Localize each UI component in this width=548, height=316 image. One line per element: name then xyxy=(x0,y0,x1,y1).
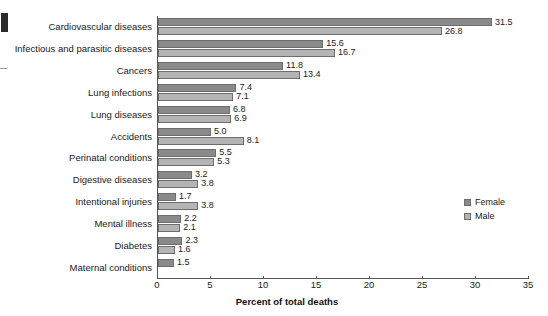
bar-male xyxy=(158,49,335,57)
bar-value-label: 31.5 xyxy=(495,18,513,27)
bar-value-label: 11.8 xyxy=(286,61,303,70)
category-label: Cardiovascular diseases xyxy=(49,21,153,32)
category-label: Infectious and parasitic diseases xyxy=(15,43,152,54)
bar-male xyxy=(158,115,231,123)
legend-item[interactable]: Male xyxy=(464,209,534,223)
legend-label: Male xyxy=(475,212,495,221)
bar-row: 2.31.6 xyxy=(158,234,528,256)
legend-label: Female xyxy=(475,198,505,207)
category-label: Digestive diseases xyxy=(73,174,152,185)
bar-male xyxy=(158,93,233,101)
bar-value-label: 1.5 xyxy=(177,258,190,267)
bar-row: 5.08.1 xyxy=(158,125,528,147)
x-tick-label: 30 xyxy=(470,279,481,290)
category-label-row: Intentional injuries xyxy=(0,191,152,213)
bar-row: 6.86.9 xyxy=(158,103,528,125)
bar-female xyxy=(158,40,323,48)
plot-area: 31.526.815.616.711.813.47.47.16.86.95.08… xyxy=(157,16,528,278)
bar-chart: Cardiovascular diseasesInfectious and pa… xyxy=(0,0,548,316)
category-label-row: Lung infections xyxy=(0,81,152,103)
bar-value-label: 6.9 xyxy=(234,114,247,123)
category-label: Maternal conditions xyxy=(70,262,152,273)
bar-value-label: 16.7 xyxy=(338,48,356,57)
bar-female xyxy=(158,171,192,179)
category-label: Perinatal conditions xyxy=(69,152,152,163)
bar-female xyxy=(158,193,176,201)
category-label-row: Maternal conditions xyxy=(0,256,152,278)
bar-male xyxy=(158,246,175,254)
category-label: Accidents xyxy=(111,131,152,142)
category-label-row: Perinatal conditions xyxy=(0,147,152,169)
x-tick-label: 10 xyxy=(258,279,269,290)
category-label: Diabetes xyxy=(115,240,153,251)
bar-row: 1.5 xyxy=(158,256,528,278)
bar-value-label: 26.8 xyxy=(445,27,463,36)
bar-row: 15.616.7 xyxy=(158,38,528,60)
category-label-row: Cancers xyxy=(0,60,152,82)
bar-value-label: 1.6 xyxy=(178,245,191,254)
category-label-row: Diabetes xyxy=(0,234,152,256)
bar-male xyxy=(158,137,244,145)
bar-female xyxy=(158,149,216,157)
bar-value-label: 5.0 xyxy=(214,127,227,136)
bar-row: 3.23.8 xyxy=(158,169,528,191)
bar-rows: 31.526.815.616.711.813.47.47.16.86.95.08… xyxy=(158,16,528,278)
x-tick-label: 25 xyxy=(417,279,428,290)
bar-female xyxy=(158,259,174,267)
category-label-row: Infectious and parasitic diseases xyxy=(0,38,152,60)
bar-male xyxy=(158,71,300,79)
x-tick-label: 15 xyxy=(311,279,322,290)
x-tick-label: 0 xyxy=(154,279,159,290)
bar-value-label: 3.8 xyxy=(201,179,214,188)
bar-value-label: 8.1 xyxy=(247,136,260,145)
bar-male xyxy=(158,180,198,188)
bar-female xyxy=(158,18,492,26)
bar-male xyxy=(158,27,442,35)
bar-female xyxy=(158,62,283,70)
bar-value-label: 13.4 xyxy=(303,70,321,79)
bar-value-label: 2.1 xyxy=(183,223,196,232)
bar-value-label: 1.7 xyxy=(179,192,192,201)
category-label: Intentional injuries xyxy=(75,196,152,207)
chart-legend: FemaleMale xyxy=(464,195,534,223)
bar-row: 31.526.8 xyxy=(158,16,528,38)
category-label: Lung diseases xyxy=(91,109,152,120)
category-label-row: Lung diseases xyxy=(0,103,152,125)
bar-value-label: 7.1 xyxy=(236,92,249,101)
category-label-row: Digestive diseases xyxy=(0,169,152,191)
bar-female xyxy=(158,215,181,223)
bar-row: 11.813.4 xyxy=(158,60,528,82)
category-label: Cancers xyxy=(117,65,152,76)
bar-male xyxy=(158,224,180,232)
category-label: Lung infections xyxy=(88,87,152,98)
x-axis-title-text: Percent of total deaths xyxy=(236,296,338,307)
x-tick-label: 5 xyxy=(207,279,212,290)
category-label-row: Mental illness xyxy=(0,212,152,234)
legend-swatch-icon xyxy=(464,213,471,220)
category-label-row: Cardiovascular diseases xyxy=(0,16,152,38)
bar-row: 7.47.1 xyxy=(158,81,528,103)
legend-item[interactable]: Female xyxy=(464,195,534,209)
legend-swatch-icon xyxy=(464,199,471,206)
category-label-row: Accidents xyxy=(0,125,152,147)
bar-female xyxy=(158,106,230,114)
x-tick-label: 20 xyxy=(364,279,375,290)
x-axis-ticks: 05101520253035 xyxy=(157,279,529,293)
bar-male xyxy=(158,202,198,210)
x-axis-title: Percent of total deaths xyxy=(0,296,548,307)
bar-value-label: 5.3 xyxy=(217,157,230,166)
bar-value-label: 3.8 xyxy=(201,201,214,210)
bar-female xyxy=(158,128,211,136)
x-tick-label: 35 xyxy=(523,279,534,290)
bar-row: 5.55.3 xyxy=(158,147,528,169)
bar-male xyxy=(158,158,214,166)
category-axis-labels: Cardiovascular diseasesInfectious and pa… xyxy=(0,16,152,278)
bar-female xyxy=(158,84,236,92)
category-label: Mental illness xyxy=(94,218,152,229)
